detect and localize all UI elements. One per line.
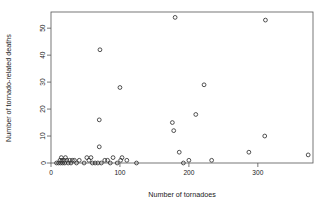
y-axis-title: Number of tornado-related deaths	[4, 34, 13, 142]
x-tick-label: 0	[49, 169, 53, 176]
tornado-deaths-scatter-chart: 0100200300 01020304050 Number of tornado…	[0, 0, 325, 205]
y-tick-label: 50	[40, 24, 47, 32]
y-tick-label: 30	[40, 78, 47, 86]
x-tick-label: 200	[183, 169, 194, 176]
x-tick-label: 100	[114, 169, 125, 176]
y-tick-label: 40	[40, 51, 47, 59]
y-tick-label: 0	[40, 161, 47, 165]
x-tick-label: 300	[252, 169, 263, 176]
x-axis-title: Number of tornadoes	[148, 190, 216, 199]
scatter-plot-screenshot: 0100200300 01020304050 Number of tornado…	[0, 0, 325, 205]
y-tick-label: 10	[40, 132, 47, 140]
y-tick-label: 20	[40, 105, 47, 113]
